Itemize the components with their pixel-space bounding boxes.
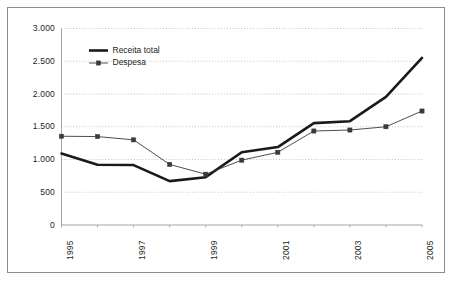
data-point-marker xyxy=(312,129,316,133)
data-point-marker xyxy=(204,172,208,176)
legend-label-despesa: Despesa xyxy=(113,58,147,67)
data-series xyxy=(59,58,424,181)
data-point-marker xyxy=(420,109,424,113)
y-tick-label: 2.000 xyxy=(9,90,55,99)
legend-label-receita-total: Receita total xyxy=(113,46,160,55)
data-point-marker xyxy=(240,158,244,162)
y-tick-label: 0 xyxy=(9,221,55,230)
data-point-marker xyxy=(59,134,63,138)
x-tick-label: 2003 xyxy=(354,240,363,260)
y-tick-label: 3.000 xyxy=(9,24,55,33)
legend-marker-despesa xyxy=(96,61,100,65)
y-tick-label: 500 xyxy=(9,188,55,197)
x-tick-label: 2005 xyxy=(426,240,435,260)
x-tick-label: 1997 xyxy=(138,240,147,260)
y-tick-label: 2.500 xyxy=(9,57,55,66)
y-tick-label: 1.000 xyxy=(9,155,55,164)
data-point-marker xyxy=(384,125,388,129)
data-point-marker xyxy=(132,138,136,142)
data-point-marker xyxy=(168,162,172,166)
y-tick-label: 1.500 xyxy=(9,122,55,131)
data-point-marker xyxy=(348,128,352,132)
x-tick-label: 1999 xyxy=(210,240,219,260)
data-point-marker xyxy=(95,134,99,138)
legend-marks xyxy=(89,51,108,66)
series-line-receita-total xyxy=(62,58,423,181)
x-tick-label: 2001 xyxy=(282,240,291,260)
data-point-marker xyxy=(276,150,280,154)
x-tick-label: 1995 xyxy=(66,240,75,260)
